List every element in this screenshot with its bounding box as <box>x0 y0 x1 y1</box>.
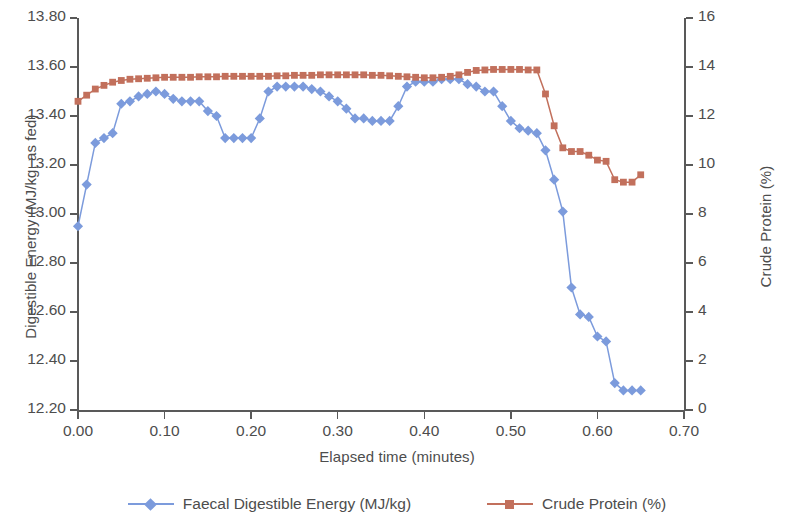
data-point-marker <box>404 73 411 80</box>
data-point-marker <box>161 74 168 81</box>
data-point-marker <box>229 133 239 143</box>
data-point-marker <box>637 171 644 178</box>
data-point-marker <box>585 152 592 159</box>
data-point-marker <box>73 221 83 231</box>
data-point-marker <box>282 72 289 79</box>
series-crude-protein <box>75 66 645 186</box>
data-point-marker <box>412 74 419 81</box>
data-point-marker <box>568 148 575 155</box>
data-point-marker <box>82 180 92 190</box>
data-point-marker <box>385 116 395 126</box>
data-point-marker <box>151 86 161 96</box>
data-point-marker <box>603 158 610 165</box>
data-point-marker <box>533 67 540 74</box>
data-point-marker <box>447 73 454 80</box>
data-point-marker <box>611 176 618 183</box>
data-point-marker <box>222 73 229 80</box>
data-point-marker <box>532 128 542 138</box>
data-point-marker <box>438 74 445 81</box>
data-point-marker <box>153 74 160 81</box>
data-point-marker <box>629 179 636 186</box>
data-point-marker <box>471 82 481 92</box>
data-point-marker <box>159 89 169 99</box>
data-point-marker <box>256 73 263 80</box>
data-point-marker <box>108 128 118 138</box>
data-point-marker <box>456 71 463 78</box>
data-point-marker <box>92 86 99 93</box>
data-point-marker <box>144 75 151 82</box>
legend-item[interactable]: Faecal Digestible Energy (MJ/kg) <box>128 495 411 513</box>
data-point-marker <box>274 72 281 79</box>
data-point-marker <box>594 157 601 164</box>
plot-area <box>0 0 794 520</box>
data-point-marker <box>315 86 325 96</box>
data-point-marker <box>395 73 402 80</box>
data-point-marker <box>298 82 308 92</box>
data-point-marker <box>367 116 377 126</box>
data-point-marker <box>402 82 412 92</box>
data-point-marker <box>125 96 135 106</box>
data-point-marker <box>168 94 178 104</box>
data-point-marker <box>135 75 142 82</box>
data-point-marker <box>542 91 549 98</box>
data-point-marker <box>116 99 126 109</box>
data-point-marker <box>376 116 386 126</box>
data-point-marker <box>558 206 568 216</box>
data-point-marker <box>272 82 282 92</box>
data-point-marker <box>490 66 497 73</box>
data-point-marker <box>291 72 298 79</box>
data-point-marker <box>464 69 471 76</box>
data-point-marker <box>516 66 523 73</box>
data-point-marker <box>360 71 367 78</box>
data-point-marker <box>421 74 428 81</box>
data-point-marker <box>170 74 177 81</box>
legend-label: Crude Protein (%) <box>542 495 666 513</box>
data-point-marker <box>265 73 272 80</box>
data-point-marker <box>118 77 125 84</box>
data-point-marker <box>540 145 550 155</box>
data-point-marker <box>636 385 646 395</box>
data-point-marker <box>317 71 324 78</box>
data-point-marker <box>248 73 255 80</box>
legend-swatch-icon <box>128 497 174 511</box>
data-point-marker <box>255 113 265 123</box>
data-point-marker <box>462 79 472 89</box>
data-point-marker <box>507 66 514 73</box>
data-point-marker <box>263 86 273 96</box>
data-point-marker <box>281 82 291 92</box>
data-point-marker <box>187 74 194 81</box>
data-point-marker <box>566 282 576 292</box>
data-point-marker <box>369 72 376 79</box>
data-point-marker <box>488 86 498 96</box>
data-point-marker <box>386 72 393 79</box>
data-point-marker <box>211 111 221 121</box>
chart-legend: Faecal Digestible Energy (MJ/kg)Crude Pr… <box>0 487 794 520</box>
data-point-marker <box>559 144 566 151</box>
data-point-marker <box>430 74 437 81</box>
data-point-marker <box>575 309 585 319</box>
data-point-marker <box>239 73 246 80</box>
data-point-marker <box>90 138 100 148</box>
data-point-marker <box>378 72 385 79</box>
data-point-marker <box>220 133 230 143</box>
legend-item[interactable]: Crude Protein (%) <box>487 495 666 513</box>
data-point-marker <box>473 67 480 74</box>
square-marker-icon <box>505 500 514 509</box>
data-point-marker <box>246 133 256 143</box>
data-point-marker <box>99 133 109 143</box>
data-point-marker <box>185 96 195 106</box>
data-point-marker <box>584 312 594 322</box>
data-point-marker <box>352 71 359 78</box>
data-point-marker <box>307 84 317 94</box>
data-point-marker <box>109 79 116 86</box>
data-point-marker <box>577 148 584 155</box>
data-point-marker <box>326 71 333 78</box>
data-point-marker <box>592 331 602 341</box>
data-point-marker <box>497 101 507 111</box>
data-point-marker <box>196 73 203 80</box>
data-point-marker <box>601 336 611 346</box>
data-point-marker <box>289 82 299 92</box>
data-point-marker <box>499 66 506 73</box>
legend-swatch-icon <box>487 497 533 511</box>
legend-label: Faecal Digestible Energy (MJ/kg) <box>183 495 411 513</box>
